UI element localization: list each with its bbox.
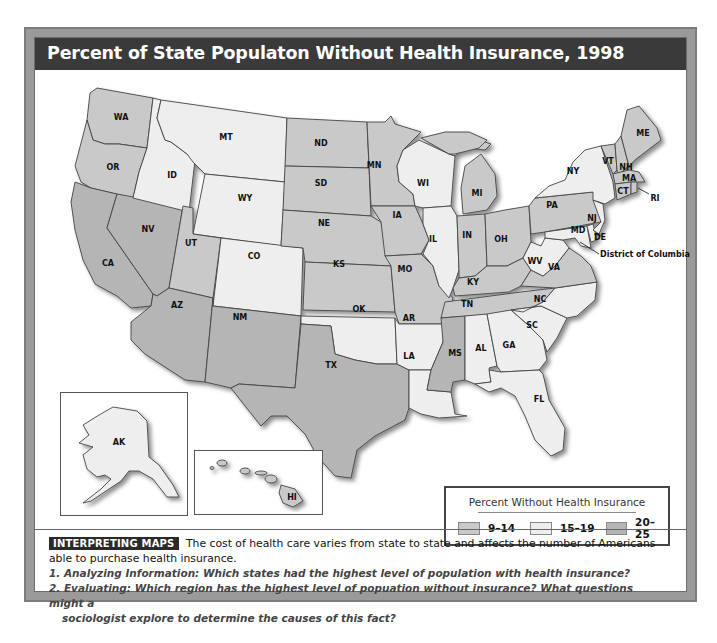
label-WY: WY	[238, 194, 253, 203]
map-title: Percent of State Populaton Without Healt…	[47, 43, 624, 63]
island-oahu	[240, 468, 250, 474]
label-OK: OK	[353, 305, 367, 314]
label-NV: NV	[142, 225, 156, 234]
label-MI: MI	[472, 189, 483, 198]
label-OR: OR	[107, 163, 120, 172]
state-SD[interactable]	[283, 166, 371, 216]
label-TN: TN	[461, 300, 473, 309]
alaska-map: AK	[61, 393, 187, 515]
label-GA: GA	[503, 341, 517, 350]
alaska-inset: AK	[60, 392, 188, 516]
state-IN[interactable]	[457, 214, 487, 278]
label-NH: NH	[619, 163, 632, 172]
legend-item-20-25: 20–25	[606, 521, 668, 535]
label-LA: LA	[403, 352, 415, 361]
map-figure: Percent of State Populaton Without Healt…	[34, 37, 687, 592]
state-RI[interactable]	[631, 182, 637, 194]
title-bar: Percent of State Populaton Without Healt…	[35, 38, 686, 70]
island-maui	[265, 475, 277, 483]
legend-item-9-14: 9–14	[458, 521, 515, 535]
map-figure-frame: Percent of State Populaton Without Healt…	[24, 27, 697, 602]
label-IA: IA	[392, 211, 402, 220]
label-MO: MO	[398, 265, 413, 274]
label-NE: NE	[318, 219, 330, 228]
label-IL: IL	[429, 235, 437, 244]
island-kauai	[217, 460, 227, 466]
label-ID: ID	[167, 171, 177, 180]
label-AZ: AZ	[171, 301, 183, 310]
label-MD: MD	[571, 226, 586, 235]
state-KS[interactable]	[303, 262, 395, 312]
label-AR: AR	[403, 314, 415, 323]
state-WY[interactable]	[193, 174, 285, 246]
caption-intro: INTERPRETING MAPS The cost of health car…	[49, 536, 666, 566]
label-AL: AL	[475, 344, 486, 353]
legend-swatch	[458, 522, 480, 535]
label-MS: MS	[448, 349, 462, 358]
hawaii-map: HI	[195, 451, 322, 514]
label-OH: OH	[494, 235, 508, 244]
label-MN: MN	[367, 161, 382, 170]
interpreting-maps-tag: INTERPRETING MAPS	[49, 537, 179, 550]
label-WV: WV	[527, 257, 543, 266]
caption-divider	[35, 529, 686, 530]
us-map: WA OR CA NV ID MT WY UT CO AZ NM ND SD N…	[35, 70, 686, 526]
state-FL[interactable]	[475, 370, 565, 456]
leader-RI	[638, 188, 649, 194]
state-CO[interactable]	[213, 238, 303, 316]
label-VA: VA	[548, 263, 561, 272]
label-SD: SD	[315, 179, 328, 188]
interpreting-maps-caption: INTERPRETING MAPS The cost of health car…	[49, 536, 666, 626]
legend-swatch	[530, 522, 552, 535]
label-FL: FL	[534, 395, 545, 404]
legend-label: 9–14	[488, 522, 515, 534]
label-NY: NY	[567, 167, 580, 176]
label-AK: AK	[113, 438, 126, 447]
label-NM: NM	[233, 313, 248, 322]
label-SC: SC	[526, 321, 538, 330]
label-CT: CT	[617, 187, 629, 196]
label-VT: VT	[602, 157, 614, 166]
label-MA: MA	[622, 174, 637, 183]
legend-swatch	[606, 522, 627, 535]
label-KS: KS	[333, 260, 345, 269]
question-2-continued: sociologist explore to determine the cau…	[49, 611, 666, 626]
label-IN: IN	[462, 231, 472, 240]
label-UT: UT	[185, 239, 197, 248]
label-PA: PA	[546, 201, 558, 210]
label-CO: CO	[248, 252, 261, 261]
legend-item-15-19: 15–19	[530, 521, 594, 535]
label-NJ: NJ	[587, 214, 597, 223]
hawaii-inset: HI	[194, 450, 323, 515]
state-MI-lower[interactable]	[461, 154, 497, 214]
legend-label: 15–19	[560, 522, 594, 534]
island-niihau	[210, 467, 214, 470]
label-KY: KY	[467, 278, 479, 287]
label-MT: MT	[219, 133, 233, 142]
label-WA: WA	[114, 113, 129, 122]
label-HI: HI	[287, 493, 297, 502]
legend-title: Percent Without Health Insurance	[446, 496, 668, 508]
label-ME: ME	[636, 129, 649, 138]
label-RI: RI	[650, 194, 659, 203]
legend-divider	[478, 512, 636, 513]
label-TX: TX	[325, 361, 337, 370]
island-molokai	[255, 471, 267, 475]
question-1: 1. Analyzing Information: Which states h…	[49, 566, 666, 581]
question-2: 2. Evaluating: Which region has the high…	[49, 581, 666, 611]
state-AK[interactable]	[79, 407, 179, 503]
label-ND: ND	[314, 139, 328, 148]
label-WI: WI	[417, 179, 429, 188]
label-DC: District of Columbia	[600, 250, 690, 259]
label-NC: NC	[534, 295, 547, 304]
label-CA: CA	[102, 259, 115, 268]
